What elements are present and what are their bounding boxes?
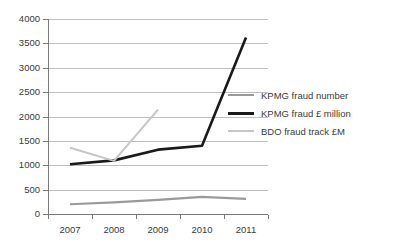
line-chart: 4000 3500 3000 2500 2000 1500 1000 500 0…	[0, 0, 393, 243]
legend-label: BDO fraud track £M	[261, 126, 345, 137]
legend-swatch-kpmg-fraud-million	[228, 112, 254, 115]
legend-item: KPMG fraud £ million	[228, 104, 351, 122]
legend-item: KPMG fraud number	[228, 86, 351, 104]
legend-label: KPMG fraud £ million	[261, 108, 351, 119]
legend: KPMG fraud number KPMG fraud £ million B…	[228, 86, 351, 140]
legend-item: BDO fraud track £M	[228, 122, 351, 140]
series-line	[70, 197, 246, 204]
legend-label: KPMG fraud number	[261, 90, 348, 101]
series-line	[70, 38, 246, 165]
legend-swatch-bdo-fraud-track	[228, 130, 254, 132]
legend-swatch-kpmg-fraud-number	[228, 94, 254, 96]
